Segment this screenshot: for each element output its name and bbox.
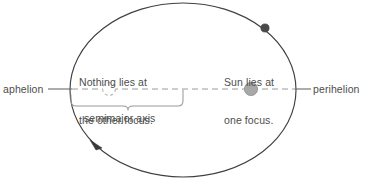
other-focus-annotation: Nothing lies at the other focus. [79,51,153,151]
orbit-diagram-canvas [0,0,367,184]
orbit-diagram: aphelion perihelion Nothing lies at the … [0,0,367,184]
other-focus-annotation-line-1: Nothing lies at [79,76,153,89]
sun-focus-annotation-line-2: one focus. [224,114,274,127]
perihelion-label: perihelion [313,83,360,96]
planet-marker [261,24,269,32]
sun-focus-annotation-line-1: Sun lies at [224,76,274,89]
semimajor-axis-label: semimajor axis [84,112,155,125]
aphelion-label: aphelion [3,83,44,96]
sun-focus-annotation: Sun lies at one focus. [224,51,274,151]
